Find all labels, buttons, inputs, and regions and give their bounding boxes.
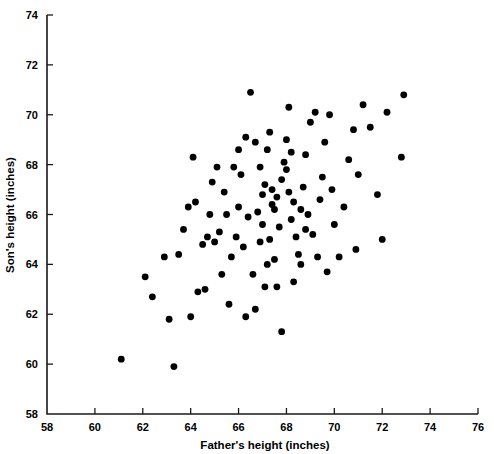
- data-point: [187, 313, 194, 320]
- data-point: [257, 164, 264, 171]
- data-point: [194, 288, 201, 295]
- data-points-layer: [118, 89, 407, 370]
- data-point: [166, 316, 173, 323]
- data-point: [247, 89, 254, 96]
- data-point: [242, 313, 249, 320]
- data-point: [400, 91, 407, 98]
- data-point: [276, 224, 283, 231]
- data-point: [360, 101, 367, 108]
- data-point: [336, 253, 343, 260]
- data-point: [240, 244, 247, 251]
- y-tick-label: 72: [26, 59, 38, 71]
- data-point: [261, 181, 268, 188]
- data-point: [379, 236, 386, 243]
- data-point: [245, 214, 252, 221]
- data-point: [283, 136, 290, 143]
- data-point: [242, 134, 249, 141]
- data-point: [321, 139, 328, 146]
- data-point: [307, 119, 314, 126]
- data-point: [209, 179, 216, 186]
- data-point: [211, 239, 218, 246]
- x-tick-label: 72: [376, 421, 388, 433]
- y-axis-title: Son's height (inches): [4, 157, 16, 273]
- data-point: [398, 154, 405, 161]
- data-point: [293, 234, 300, 241]
- data-point: [264, 146, 271, 153]
- data-point: [317, 196, 324, 203]
- data-point: [288, 216, 295, 223]
- data-point: [206, 211, 213, 218]
- data-point: [223, 211, 230, 218]
- data-point: [259, 191, 266, 198]
- data-point: [161, 253, 168, 260]
- data-point: [228, 253, 235, 260]
- data-point: [233, 234, 240, 241]
- data-point: [214, 164, 221, 171]
- data-point: [221, 189, 228, 196]
- x-tick-label: 76: [472, 421, 484, 433]
- axis-lines: [47, 15, 478, 414]
- y-tick-label: 74: [26, 9, 39, 21]
- data-point: [290, 278, 297, 285]
- x-tick-label: 60: [89, 421, 101, 433]
- data-point: [319, 174, 326, 181]
- data-point: [302, 151, 309, 158]
- data-point: [250, 271, 257, 278]
- data-point: [226, 301, 233, 308]
- data-point: [235, 204, 242, 211]
- data-point: [285, 189, 292, 196]
- y-tick-label: 58: [26, 408, 38, 420]
- data-point: [185, 204, 192, 211]
- x-tick-label: 64: [185, 421, 198, 433]
- data-point: [324, 268, 331, 275]
- data-point: [341, 204, 348, 211]
- data-point: [202, 286, 209, 293]
- data-point: [283, 166, 290, 173]
- data-point: [149, 293, 156, 300]
- data-point: [252, 139, 259, 146]
- data-point: [295, 251, 302, 258]
- data-point: [235, 146, 242, 153]
- x-tick-label: 58: [41, 421, 53, 433]
- data-point: [345, 156, 352, 163]
- data-point: [254, 209, 261, 216]
- data-point: [290, 199, 297, 206]
- data-point: [285, 104, 292, 111]
- data-point: [326, 111, 333, 118]
- data-point: [352, 246, 359, 253]
- data-point: [281, 159, 288, 166]
- data-point: [302, 226, 309, 233]
- data-point: [230, 164, 237, 171]
- data-point: [350, 126, 357, 133]
- data-point: [273, 194, 280, 201]
- x-axis-title: Father's height (inches): [200, 439, 329, 451]
- data-point: [180, 226, 187, 233]
- data-point: [175, 251, 182, 258]
- data-point: [367, 124, 374, 131]
- y-tick-label: 60: [26, 358, 38, 370]
- data-point: [216, 229, 223, 236]
- data-point: [204, 234, 211, 241]
- data-point: [331, 221, 338, 228]
- data-point: [271, 256, 278, 263]
- data-point: [269, 186, 276, 193]
- y-tick-label: 68: [26, 159, 38, 171]
- data-point: [192, 199, 199, 206]
- data-point: [264, 261, 271, 268]
- data-point: [297, 206, 304, 213]
- data-point: [384, 109, 391, 116]
- scatter-plot-figure: 58606264666870727476 586062646668707274 …: [0, 0, 494, 454]
- data-point: [142, 273, 149, 280]
- data-point: [329, 186, 336, 193]
- data-point: [278, 328, 285, 335]
- data-point: [305, 211, 312, 218]
- x-axis-ticks: 58606264666870727476: [41, 408, 484, 433]
- axis-layer: [47, 15, 478, 414]
- y-tick-label: 66: [26, 209, 38, 221]
- data-point: [259, 221, 266, 228]
- data-point: [288, 149, 295, 156]
- data-point: [312, 109, 319, 116]
- y-tick-label: 70: [26, 109, 38, 121]
- data-point: [118, 356, 125, 363]
- data-point: [374, 191, 381, 198]
